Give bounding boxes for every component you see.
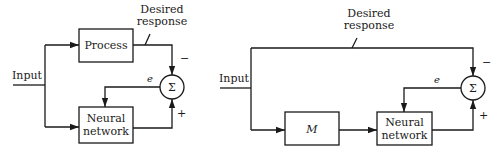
left-nn-label-2: network	[83, 125, 129, 138]
right-plus-sign: +	[479, 109, 488, 122]
right-desired-pointer	[352, 38, 357, 48]
left-desired-arrow	[133, 45, 172, 75]
right-minus-sign: −	[482, 56, 491, 69]
left-input-label: Input	[12, 69, 43, 82]
left-nn-label-1: Neural	[87, 112, 126, 125]
left-process-label: Process	[84, 39, 128, 52]
left-nn-output-arrow	[133, 99, 172, 128]
right-nn-output-arrow	[432, 100, 473, 130]
right-input-label: Input	[219, 72, 250, 85]
right-error-label: e	[434, 74, 440, 85]
left-minus-sign: −	[180, 52, 189, 65]
left-desired-label-2: response	[137, 15, 187, 28]
right-diagram: Input Desired response − M Neural networ…	[219, 7, 491, 145]
left-sigma-symbol: Σ	[168, 81, 176, 94]
right-error-arrow	[404, 88, 461, 112]
right-sigma-symbol: Σ	[469, 82, 477, 95]
left-error-label: e	[147, 73, 153, 84]
right-m-label: M	[305, 123, 318, 136]
right-desired-arrow	[251, 48, 473, 76]
left-desired-pointer	[145, 34, 150, 45]
right-nn-label-2: network	[382, 129, 428, 142]
right-desired-label-2: response	[344, 19, 394, 32]
left-plus-sign: +	[177, 107, 186, 120]
left-error-arrow	[105, 87, 160, 107]
diagram-canvas: Input Process Desired response − Σ e Neu…	[0, 0, 497, 155]
right-nn-label-1: Neural	[385, 116, 424, 129]
left-diagram: Input Process Desired response − Σ e Neu…	[12, 3, 189, 143]
